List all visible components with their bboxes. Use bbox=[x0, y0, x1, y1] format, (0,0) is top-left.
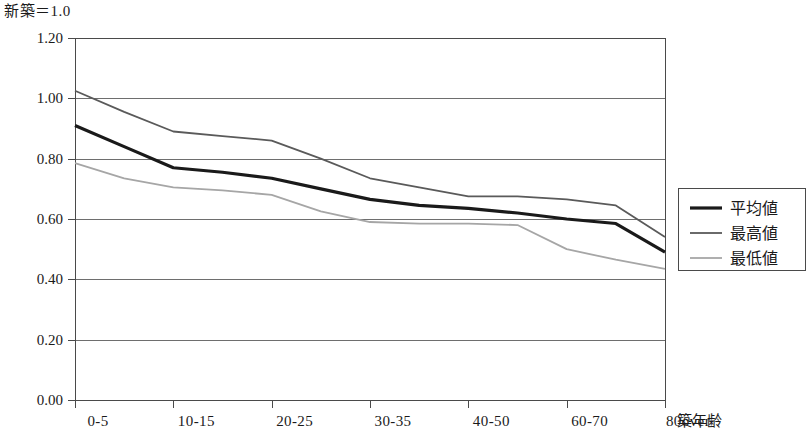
tick-marks-group bbox=[68, 39, 666, 409]
y-axis-tick-label: 0.00 bbox=[37, 392, 63, 408]
chart-container: 新築＝1.0 0.000.200.400.600.801.001.20 0-51… bbox=[0, 0, 808, 444]
unit-note-label: 新築＝1.0 bbox=[4, 2, 71, 20]
legend-label: 最高値 bbox=[730, 225, 778, 242]
x-axis-title: 築年齢 bbox=[677, 412, 722, 429]
x-axis-tick-label: 0-5 bbox=[87, 413, 108, 429]
x-axis-tick-label: 20-25 bbox=[276, 413, 313, 429]
legend: 平均値最高値最低値 bbox=[679, 189, 806, 271]
legend-label: 平均値 bbox=[730, 200, 778, 217]
y-axis-tick-label: 0.40 bbox=[37, 271, 63, 287]
y-axis-tick-label: 0.20 bbox=[37, 332, 63, 348]
x-axis-title-group: 築年齢 bbox=[677, 412, 722, 429]
x-axis-tick-label: 10-15 bbox=[178, 413, 215, 429]
y-axis-tick-label: 1.00 bbox=[37, 90, 63, 106]
x-axis-tick-label: 40-50 bbox=[473, 413, 510, 429]
y-axis-tick-label: 1.20 bbox=[37, 30, 63, 46]
y-axis-tick-label: 0.80 bbox=[37, 151, 63, 167]
y-axis-labels-group: 0.000.200.400.600.801.001.20 bbox=[37, 30, 63, 408]
line-chart: 0.000.200.400.600.801.001.20 0-510-1520-… bbox=[0, 0, 808, 444]
y-axis-tick-label: 0.60 bbox=[37, 211, 63, 227]
series-group bbox=[75, 91, 665, 269]
x-axis-tick-label: 60-70 bbox=[571, 413, 608, 429]
x-axis-tick-label: 30-35 bbox=[375, 413, 412, 429]
legend-label: 最低値 bbox=[730, 250, 778, 267]
series-line-平均値 bbox=[75, 125, 665, 252]
x-axis-labels-group: 0-510-1520-2530-3540-5060-7080over bbox=[87, 413, 710, 429]
